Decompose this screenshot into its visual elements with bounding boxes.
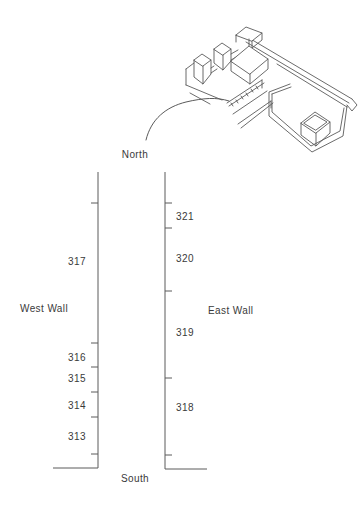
- curved-leader-line: [146, 98, 229, 140]
- east-unit-321-label: 321: [176, 211, 194, 222]
- west-unit-315-label: 315: [64, 373, 90, 384]
- east-unit-319-label: 319: [176, 327, 194, 338]
- south-label: South: [109, 473, 161, 484]
- west-unit-313-label: 313: [64, 431, 90, 442]
- figure: North South West Wall East Wall 317 316 …: [0, 0, 362, 507]
- north-label: North: [109, 149, 161, 160]
- west-unit-317-label: 317: [64, 256, 90, 267]
- entrance-trench: [227, 80, 273, 128]
- central-block: [231, 46, 268, 74]
- east-unit-320-label: 320: [176, 253, 194, 264]
- east-wall-label: East Wall: [208, 305, 253, 316]
- notched-wall-detail: [186, 49, 238, 104]
- west-wall-scale: [53, 172, 98, 468]
- room-interior: [272, 87, 344, 146]
- isometric-structure-drawing: [186, 27, 357, 152]
- long-wall-band: [246, 38, 357, 111]
- notched-wall-posts: [194, 43, 231, 66]
- west-unit-314-label: 314: [64, 400, 90, 411]
- west-wall-label: West Wall: [20, 303, 68, 314]
- east-unit-318-label: 318: [176, 402, 194, 413]
- west-unit-316-label: 316: [64, 352, 90, 363]
